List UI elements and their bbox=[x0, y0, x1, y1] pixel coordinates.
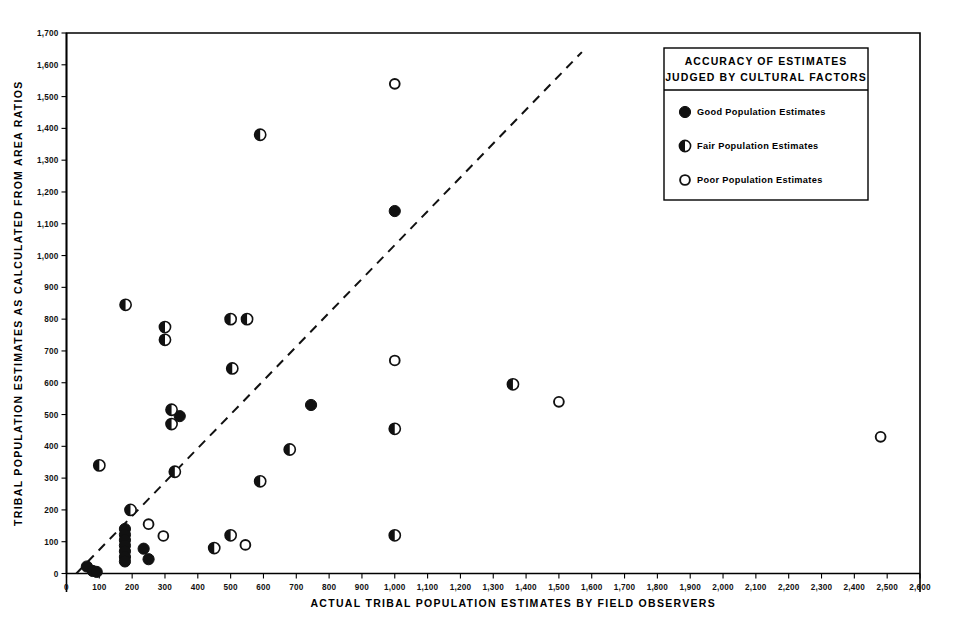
x-tick-label: 2,300 bbox=[811, 583, 833, 592]
data-point-poor bbox=[241, 540, 251, 550]
x-tick-label: 2,000 bbox=[712, 583, 734, 592]
x-tick-label: 1,500 bbox=[548, 583, 570, 592]
data-point-poor bbox=[144, 519, 154, 529]
y-tick-label: 1,200 bbox=[37, 188, 59, 197]
x-tick-label: 300 bbox=[158, 583, 173, 592]
legend-label-poor: Poor Population Estimates bbox=[697, 175, 823, 185]
x-tick-label: 500 bbox=[224, 583, 239, 592]
y-tick-label: 1,600 bbox=[37, 61, 59, 70]
y-axis-ticks: 01002003004005006007008009001,0001,1001,… bbox=[37, 29, 67, 579]
x-tick-label: 1,900 bbox=[679, 583, 701, 592]
x-tick-label: 100 bbox=[92, 583, 107, 592]
axis-titles: ACTUAL TRIBAL POPULATION ESTIMATES BY FI… bbox=[12, 81, 716, 609]
y-axis-title: TRIBAL POPULATION ESTIMATES AS CALCULATE… bbox=[12, 81, 24, 526]
data-point-good bbox=[91, 566, 102, 577]
x-tick-label: 2,100 bbox=[745, 583, 767, 592]
data-point-good bbox=[119, 556, 130, 567]
legend-title-line-2: JUDGED BY CULTURAL FACTORS bbox=[665, 71, 867, 83]
x-tick-label: 2,600 bbox=[909, 583, 931, 592]
x-tick-label: 400 bbox=[191, 583, 206, 592]
data-point-poor bbox=[390, 79, 400, 89]
x-tick-label: 200 bbox=[125, 583, 140, 592]
y-tick-label: 1,500 bbox=[37, 93, 59, 102]
y-tick-label: 1,700 bbox=[37, 29, 59, 38]
y-tick-label: 200 bbox=[44, 506, 59, 515]
y-tick-label: 100 bbox=[44, 538, 59, 547]
y-tick-label: 0 bbox=[54, 570, 59, 579]
legend-label-good: Good Population Estimates bbox=[697, 107, 826, 117]
y-tick-label: 600 bbox=[44, 379, 59, 388]
x-axis-title: ACTUAL TRIBAL POPULATION ESTIMATES BY FI… bbox=[310, 597, 716, 609]
data-point-poor bbox=[876, 432, 886, 442]
data-point-good bbox=[143, 554, 154, 565]
x-tick-label: 1,100 bbox=[417, 583, 439, 592]
y-tick-label: 400 bbox=[44, 442, 59, 451]
data-point-poor bbox=[158, 531, 168, 541]
x-tick-label: 1,000 bbox=[384, 583, 406, 592]
y-tick-label: 1,000 bbox=[37, 252, 59, 261]
scatter-plot-figure: 01002003004005006007008009001,0001,1001,… bbox=[0, 0, 958, 622]
data-point-poor bbox=[554, 397, 564, 407]
chart-canvas: 01002003004005006007008009001,0001,1001,… bbox=[0, 0, 958, 622]
x-tick-label: 1,300 bbox=[483, 583, 505, 592]
x-tick-label: 2,500 bbox=[876, 583, 898, 592]
legend-title-line-1: ACCURACY OF ESTIMATES bbox=[685, 55, 848, 67]
y-tick-label: 1,300 bbox=[37, 156, 59, 165]
chart-legend[interactable]: ACCURACY OF ESTIMATESJUDGED BY CULTURAL … bbox=[664, 48, 868, 200]
legend-marker-poor bbox=[680, 175, 690, 185]
x-tick-label: 800 bbox=[322, 583, 337, 592]
legend-marker-good bbox=[679, 106, 690, 117]
y-tick-label: 1,400 bbox=[37, 124, 59, 133]
x-tick-label: 700 bbox=[289, 583, 304, 592]
x-tick-label: 2,200 bbox=[778, 583, 800, 592]
x-tick-label: 900 bbox=[355, 583, 370, 592]
x-tick-label: 1,800 bbox=[647, 583, 669, 592]
y-tick-label: 700 bbox=[44, 347, 59, 356]
x-tick-label: 1,700 bbox=[614, 583, 636, 592]
data-point-poor bbox=[390, 356, 400, 366]
x-tick-label: 2,400 bbox=[844, 583, 866, 592]
y-tick-label: 300 bbox=[44, 474, 59, 483]
legend-label-fair: Fair Population Estimates bbox=[697, 141, 819, 151]
reference-line bbox=[76, 52, 582, 573]
y-tick-label: 500 bbox=[44, 411, 59, 420]
y-tick-label: 900 bbox=[44, 283, 59, 292]
y-tick-label: 1,100 bbox=[37, 220, 59, 229]
data-point-good bbox=[138, 543, 149, 554]
x-tick-label: 600 bbox=[256, 583, 271, 592]
one-to-one-reference-line bbox=[76, 52, 582, 573]
x-tick-label: 0 bbox=[64, 583, 69, 592]
x-tick-label: 1,400 bbox=[515, 583, 537, 592]
x-tick-label: 1,200 bbox=[450, 583, 472, 592]
x-tick-label: 1,600 bbox=[581, 583, 603, 592]
data-point-good bbox=[389, 205, 400, 216]
x-axis-ticks: 01002003004005006007008009001,0001,1001,… bbox=[64, 574, 931, 592]
y-tick-label: 800 bbox=[44, 315, 59, 324]
data-point-good bbox=[305, 399, 316, 410]
